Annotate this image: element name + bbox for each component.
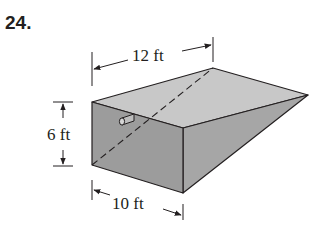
trough-figure: 12 ft 6 ft 10 ft (0, 0, 320, 249)
solid-faces (92, 68, 308, 193)
dimension-height: 6 ft (47, 102, 73, 166)
length-label: 12 ft (132, 46, 164, 65)
width-label: 10 ft (112, 194, 144, 213)
height-label: 6 ft (47, 125, 70, 144)
